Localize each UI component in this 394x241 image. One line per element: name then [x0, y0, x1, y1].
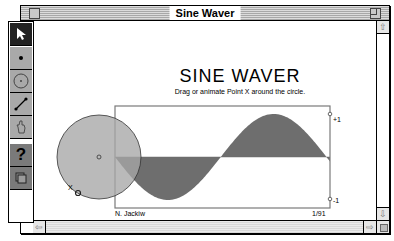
point-tool[interactable] [10, 47, 32, 70]
circle-icon [12, 72, 30, 90]
sketch-instructions: Drag or animate Point X around the circl… [130, 88, 350, 95]
help-tool[interactable]: ? [10, 144, 32, 167]
plus-one-marker[interactable] [328, 112, 332, 116]
custom-tool[interactable] [10, 167, 32, 190]
author-credit: N. Jackiw [115, 210, 145, 217]
hand-icon [14, 119, 28, 135]
minus-one-marker[interactable] [328, 197, 332, 201]
point-x-label: X [68, 184, 73, 191]
text-tool[interactable] [10, 116, 32, 139]
plus-one-label: +1 [333, 116, 341, 123]
sketch-date: 1/91 [312, 210, 326, 217]
stack-icon [14, 171, 28, 185]
minus-one-label: -1 [333, 197, 339, 204]
sketch-heading: SINE WAVER [160, 66, 320, 87]
selection-arrow-tool[interactable] [10, 23, 32, 46]
question-icon: ? [16, 145, 26, 165]
compass-tool[interactable] [10, 70, 32, 93]
arrow-icon [15, 27, 27, 41]
toolbox: ? [8, 21, 34, 223]
straightedge-tool[interactable] [10, 93, 32, 116]
segment-icon [13, 96, 29, 112]
point-icon [16, 53, 26, 63]
